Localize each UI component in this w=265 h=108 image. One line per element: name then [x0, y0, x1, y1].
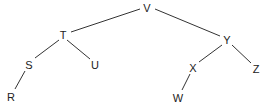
- edge-x-w: [182, 74, 190, 90]
- edge-t-s: [35, 40, 59, 58]
- edge-s-r: [15, 71, 25, 89]
- edge-y-x: [199, 45, 222, 62]
- node-t: T: [60, 29, 67, 41]
- node-u: U: [91, 59, 99, 71]
- edges: [15, 9, 251, 90]
- tree-diagram: VTYSUXZRW: [0, 0, 265, 108]
- edge-v-y: [155, 9, 220, 36]
- edge-v-t: [71, 9, 140, 32]
- node-x: X: [189, 62, 197, 74]
- node-y: Y: [223, 34, 231, 46]
- edge-y-z: [232, 45, 251, 63]
- edge-t-u: [67, 40, 90, 59]
- node-r: R: [7, 91, 15, 103]
- node-s: S: [25, 59, 32, 71]
- node-w: W: [173, 92, 184, 104]
- nodes: VTYSUXZRW: [7, 2, 260, 104]
- node-z: Z: [253, 63, 260, 75]
- node-v: V: [143, 2, 151, 14]
